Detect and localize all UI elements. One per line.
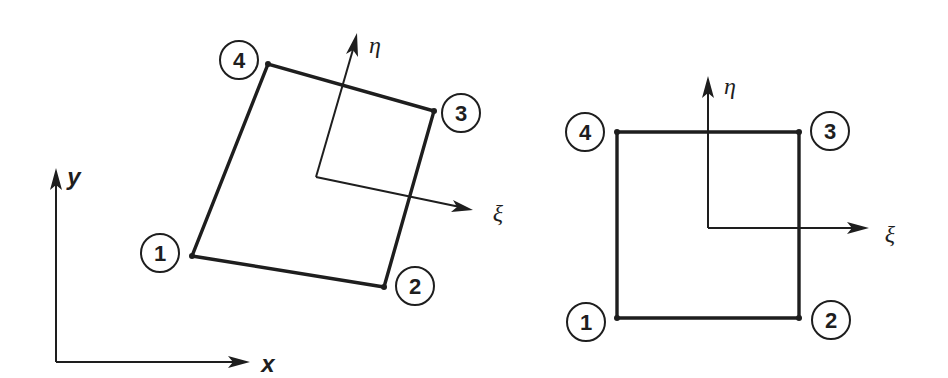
parent-node-2-dot bbox=[796, 315, 802, 321]
physical-xi-label: ξ bbox=[493, 200, 504, 226]
physical-xi-axis bbox=[316, 177, 460, 207]
parent-node-4-marker: 4 bbox=[566, 113, 604, 151]
physical-node-1-marker: 1 bbox=[141, 234, 179, 272]
parent-node-3-marker: 3 bbox=[811, 112, 849, 150]
node-number: 4 bbox=[579, 120, 592, 145]
physical-node-1-dot bbox=[189, 253, 195, 259]
physical-node-2-marker: 2 bbox=[396, 267, 434, 305]
node-number: 2 bbox=[409, 274, 421, 299]
parent-node-1-dot bbox=[614, 315, 620, 321]
parent-eta-label: η bbox=[724, 73, 736, 99]
physical-node-2-dot bbox=[381, 284, 387, 290]
physical-local-axes: η ξ bbox=[316, 32, 504, 226]
physical-element: η ξ 1 2 3 4 bbox=[141, 32, 504, 305]
node-number: 4 bbox=[233, 48, 246, 73]
global-x-label: x bbox=[259, 350, 276, 377]
physical-element-outline bbox=[192, 64, 434, 287]
isoparametric-mapping-diagram: y x η ξ 1 2 3 bbox=[0, 0, 948, 378]
node-number: 3 bbox=[824, 119, 836, 144]
node-number: 1 bbox=[154, 241, 166, 266]
physical-node-4-dot bbox=[265, 61, 271, 67]
physical-node-4-marker: 4 bbox=[220, 41, 258, 79]
node-number: 1 bbox=[580, 310, 592, 335]
physical-node-3-marker: 3 bbox=[442, 94, 480, 132]
physical-eta-label: η bbox=[369, 32, 381, 58]
parent-node-1-marker: 1 bbox=[567, 303, 605, 341]
parent-node-3-dot bbox=[796, 129, 802, 135]
parent-node-4-dot bbox=[614, 129, 620, 135]
node-number: 2 bbox=[825, 308, 837, 333]
node-number: 3 bbox=[455, 101, 467, 126]
physical-node-3-dot bbox=[431, 108, 437, 114]
parent-element: η ξ 1 2 3 4 bbox=[566, 73, 896, 341]
parent-xi-label: ξ bbox=[885, 221, 896, 247]
parent-node-2-marker: 2 bbox=[812, 301, 850, 339]
global-y-label: y bbox=[66, 163, 82, 190]
physical-eta-axis bbox=[316, 46, 354, 177]
